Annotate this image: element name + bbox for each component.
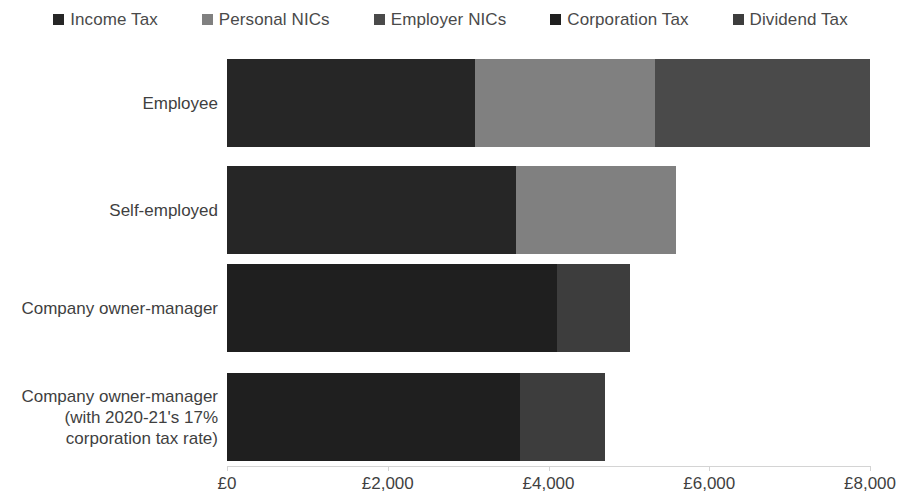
x-axis-tick-label: £0	[218, 474, 237, 494]
x-axis-tick	[227, 466, 228, 471]
category-label-line: corporation tax rate)	[0, 428, 218, 449]
chart-container: Income Tax Personal NICs Employer NICs C…	[0, 0, 901, 501]
bar-segment[interactable]	[557, 264, 630, 352]
x-axis-tick	[870, 466, 871, 471]
x-axis-tick	[388, 466, 389, 471]
bar-segment[interactable]	[520, 373, 605, 461]
category-label: Self-employed	[0, 200, 218, 221]
x-axis-tick-label: £2,000	[362, 474, 414, 494]
category-label-line: (with 2020-21's 17%	[0, 407, 218, 428]
x-axis-tick-label: £4,000	[523, 474, 575, 494]
x-axis-tick	[709, 466, 710, 471]
bar-segment[interactable]	[516, 166, 676, 254]
category-label-line: Company owner-manager	[0, 298, 218, 319]
bar-segment[interactable]	[227, 166, 516, 254]
category-label: Company owner-manager(with 2020-21's 17%…	[0, 386, 218, 449]
bar-segment[interactable]	[227, 373, 520, 461]
plot-area: EmployeeSelf-employedCompany owner-manag…	[0, 0, 901, 501]
bar-row[interactable]	[227, 373, 605, 461]
bar-segment[interactable]	[475, 59, 655, 147]
bar-row[interactable]	[227, 264, 630, 352]
bar-row[interactable]	[227, 59, 870, 147]
x-axis-tick-label: £8,000	[844, 474, 896, 494]
bar-segment[interactable]	[227, 264, 557, 352]
x-axis-tick	[549, 466, 550, 471]
x-axis-tick-label: £6,000	[683, 474, 735, 494]
category-label: Company owner-manager	[0, 298, 218, 319]
bar-segment[interactable]	[227, 59, 475, 147]
bar-row[interactable]	[227, 166, 676, 254]
bar-segment[interactable]	[655, 59, 870, 147]
category-label-line: Employee	[0, 93, 218, 114]
category-label-line: Self-employed	[0, 200, 218, 221]
category-label: Employee	[0, 93, 218, 114]
category-label-line: Company owner-manager	[0, 386, 218, 407]
